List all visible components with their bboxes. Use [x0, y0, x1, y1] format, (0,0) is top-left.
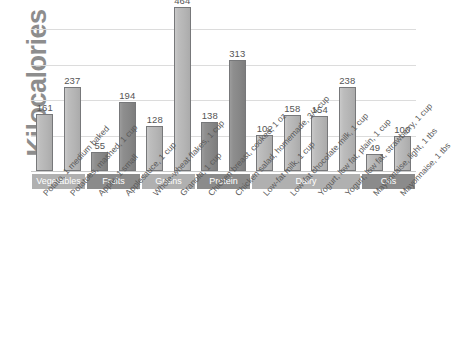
- y-axis-title-area: Kilocalories: [0, 0, 34, 172]
- bar-value-label: 464: [168, 0, 197, 6]
- bar-value-label: 194: [113, 90, 142, 101]
- bar-value-label: 161: [30, 102, 59, 113]
- gridline-100: [31, 136, 416, 137]
- bar-value-label: 238: [333, 75, 362, 86]
- bar-value-label: 128: [140, 114, 169, 125]
- gridline-400: [31, 29, 416, 30]
- gridline-300: [31, 65, 416, 66]
- bar-value-label: 313: [223, 48, 252, 59]
- x-axis-tick-labels: Potato, 1 medium bakedPotatoes, mashed, …: [0, 189, 416, 345]
- bar: [36, 114, 53, 171]
- gridline-200: [31, 100, 416, 101]
- bar-value-label: 237: [58, 75, 87, 86]
